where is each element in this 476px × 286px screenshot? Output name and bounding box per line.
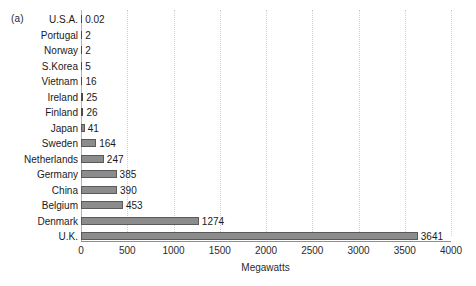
bar [81,139,96,147]
category-label: Norway [44,45,78,56]
category-label: Sweden [42,138,78,149]
x-tick-label: 1000 [162,245,184,256]
bar-value-label: 247 [107,154,124,165]
bar-row: Sweden164 [0,138,476,153]
bar-row: Japan41 [0,123,476,138]
bar-row: Portugal2 [0,30,476,45]
bar-row: Germany385 [0,169,476,184]
bar-value-label: 5 [85,61,91,72]
bar [81,77,82,85]
category-label: China [52,185,78,196]
x-tick-label: 1500 [209,245,231,256]
category-label: Germany [37,169,78,180]
bar-value-label: 1274 [202,216,224,227]
x-tick-label: 0 [78,245,84,256]
category-label: Ireland [47,92,78,103]
category-label: Netherlands [24,154,78,165]
bar-value-label: 3641 [421,231,443,242]
x-axis-title: Megawatts [0,262,476,273]
bar-row: Denmark1274 [0,216,476,231]
x-tick-label: 2000 [255,245,277,256]
category-label: Denmark [37,216,78,227]
bar-row: S.Korea5 [0,61,476,76]
bar-value-label: 2 [85,30,91,41]
bar-row: Netherlands247 [0,154,476,169]
bar [81,93,83,101]
bar [81,201,123,209]
bar-value-label: 26 [86,107,97,118]
bar-chart: (a) U.S.A.0.02Portugal2Norway2S.Korea5Vi… [0,0,476,286]
bar [81,108,83,116]
bar-row: Belgium453 [0,200,476,215]
bar [81,31,82,39]
bar [81,170,117,178]
x-tick-label: 3000 [347,245,369,256]
bar [81,186,117,194]
category-label: Vietnam [41,76,78,87]
bar-row: Vietnam16 [0,76,476,91]
bar [81,155,104,163]
category-label: U.K. [59,231,78,242]
bar [81,217,199,225]
bar [81,46,82,54]
bar-row: Norway2 [0,45,476,60]
bar-row: Finland26 [0,107,476,122]
bar-value-label: 16 [85,76,96,87]
bar-value-label: 390 [120,185,137,196]
bar [81,62,82,70]
category-label: Belgium [42,200,78,211]
bar-value-label: 385 [120,169,137,180]
bar [81,124,85,132]
bar-value-label: 0.02 [85,14,104,25]
bar-row: Ireland25 [0,92,476,107]
bar-value-label: 25 [86,92,97,103]
category-label: Finland [45,107,78,118]
category-label: U.S.A. [49,14,78,25]
bar-value-label: 164 [99,138,116,149]
category-label: S.Korea [42,61,78,72]
x-tick-label: 500 [119,245,136,256]
bar [81,232,418,240]
bar-value-label: 453 [126,200,143,211]
category-label: Japan [51,123,78,134]
x-tick-label: 2500 [301,245,323,256]
bar-row: China390 [0,185,476,200]
bar-row: U.S.A.0.02 [0,14,476,29]
category-label: Portugal [41,30,78,41]
bar-value-label: 41 [88,123,99,134]
bar-value-label: 2 [85,45,91,56]
x-tick-label: 4000 [440,245,462,256]
x-tick-label: 3500 [394,245,416,256]
x-axis-title-text: Megawatts [241,262,289,273]
bar [81,15,82,23]
